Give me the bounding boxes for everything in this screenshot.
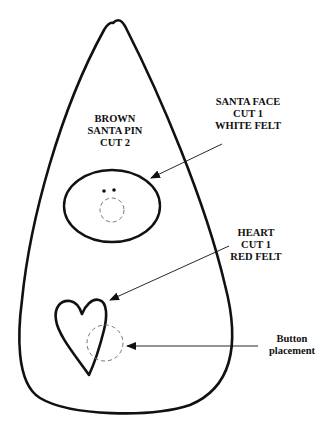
body-label-line-1: BROWN xyxy=(80,113,150,125)
button-label-line-2: placement xyxy=(262,345,322,357)
button-label-line-1: Button xyxy=(262,333,322,345)
face-label-line-3: WHITE FELT xyxy=(210,120,286,132)
body-label-line-3: CUT 2 xyxy=(80,137,150,149)
santa-pin-body-outline xyxy=(19,20,232,413)
heart-outline xyxy=(56,300,107,375)
eye-right-icon xyxy=(112,188,116,192)
pattern-drawing xyxy=(0,0,325,432)
face-label: SANTA FACE CUT 1 WHITE FELT xyxy=(210,96,286,132)
face-label-line-1: SANTA FACE xyxy=(210,96,286,108)
heart-arrow xyxy=(110,246,229,300)
santa-face-outline xyxy=(64,170,160,242)
eye-left-icon xyxy=(102,189,106,193)
button-label: Button placement xyxy=(262,333,322,357)
heart-label: HEART CUT 1 RED FELT xyxy=(228,227,284,263)
heart-label-line-3: RED FELT xyxy=(228,251,284,263)
body-label-line-2: SANTA PIN xyxy=(80,125,150,137)
heart-label-line-1: HEART xyxy=(228,227,284,239)
body-label: BROWN SANTA PIN CUT 2 xyxy=(80,113,150,149)
nose-placement-circle xyxy=(100,198,124,222)
face-arrow xyxy=(151,144,222,178)
heart-label-line-2: CUT 1 xyxy=(228,239,284,251)
face-label-line-2: CUT 1 xyxy=(210,108,286,120)
